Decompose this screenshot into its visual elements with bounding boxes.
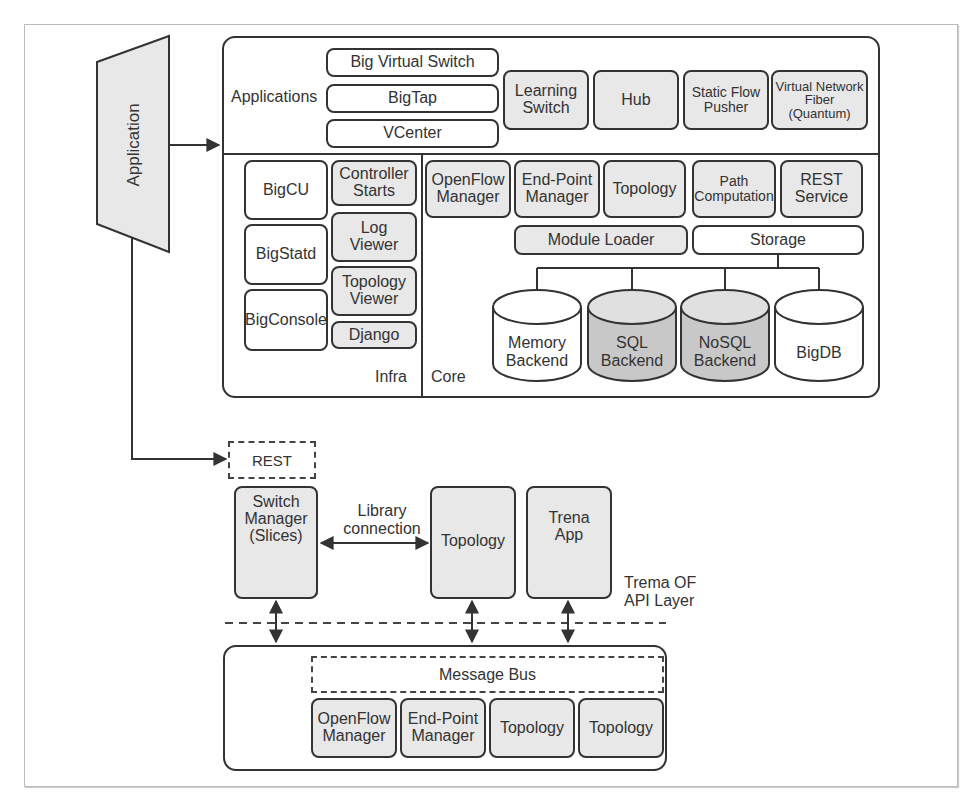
infra-bigcu[interactable]: BigCU [244,160,328,220]
storage-tree [537,255,819,290]
core-storage[interactable]: Storage [692,225,864,255]
storage-backend-label: SQL Backend [588,334,676,369]
switch-manager-label: Switch Manager (Slices) [244,494,307,544]
bus-end-point-manager[interactable]: End-Point Manager [400,698,486,758]
storage-backend-cylinder[interactable] [775,290,863,381]
core-path-computation[interactable]: Path Computation [692,160,776,218]
core-openflow-manager[interactable]: OpenFlow Manager [425,160,511,218]
storage-backend-label: NoSQL Backend [681,334,769,369]
bus-topology-2[interactable]: Topology [578,698,664,758]
storage-backend-label: BigDB [775,344,863,362]
core-end-point-manager[interactable]: End-Point Manager [514,160,600,218]
app-vcenter[interactable]: VCenter [326,119,499,148]
app-static-flow-pusher[interactable]: Static Flow Pusher [683,70,769,130]
infra-topology-viewer[interactable]: Topology Viewer [331,266,417,316]
trema-switch-manager[interactable]: Switch Manager (Slices) [234,486,318,599]
trema-trena-app[interactable]: Trena App [526,486,612,599]
app-virtual-network-fiber[interactable]: Virtual Network Fiber (Quantum) [771,70,868,130]
app-learning-switch[interactable]: Learning Switch [503,70,589,130]
trema-rest[interactable]: REST [228,441,316,479]
trena-app-label: Trena App [548,510,589,544]
core-module-loader[interactable]: Module Loader [514,225,688,255]
core-rest-service[interactable]: REST Service [780,160,863,218]
app-big-virtual-switch[interactable]: Big Virtual Switch [326,48,499,77]
arrow-to-rest [132,238,226,459]
infra-controller-starts[interactable]: Controller Starts [331,160,417,206]
app-bigtap[interactable]: BigTap [326,84,499,113]
core-label: Core [431,368,466,386]
message-bus[interactable]: Message Bus [311,656,664,693]
app-hub[interactable]: Hub [593,70,679,130]
infra-django[interactable]: Django [331,321,417,349]
trema-topology[interactable]: Topology [430,486,516,599]
topology-label: Topology [441,533,505,550]
bus-topology-1[interactable]: Topology [489,698,575,758]
library-connection-label: Library connection [334,502,430,537]
bus-openflow-manager[interactable]: OpenFlow Manager [311,698,397,758]
infra-log-viewer[interactable]: Log Viewer [331,212,417,262]
infra-label: Infra [375,368,407,386]
core-topology[interactable]: Topology [603,160,686,218]
applications-label: Applications [231,88,317,106]
infra-bigconsole[interactable]: BigConsole [244,289,328,351]
infra-bigstatd[interactable]: BigStatd [244,224,328,285]
storage-backend-label: Memory Backend [493,334,581,369]
api-layer-label: Trema OF API Layer [624,574,696,609]
application-label: Application [124,103,143,186]
